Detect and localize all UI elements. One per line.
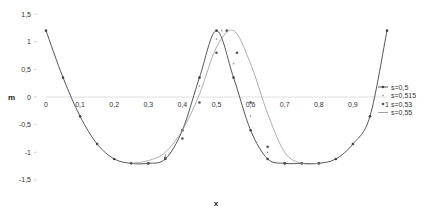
- legend: s=0,5s=0,515s=0,53s=0,55: [378, 84, 416, 117]
- y-tick-label: 0,5: [21, 66, 31, 73]
- x-tick-label: 0,3: [143, 101, 153, 108]
- data-point: [369, 115, 372, 118]
- x-tick-label: 0,2: [109, 101, 119, 108]
- data-point: [96, 143, 99, 146]
- data-point: [249, 129, 252, 132]
- legend-label: s=0,55: [391, 109, 412, 116]
- y-axis-label: m: [8, 93, 15, 102]
- data-point: [221, 30, 223, 32]
- data-point: [62, 76, 65, 79]
- data-point: [45, 29, 48, 32]
- data-point: [198, 76, 201, 79]
- line-chart: 00,10,20,30,40,50,60,70,80,911,510,50-0,…: [0, 0, 425, 211]
- x-tick-label: 0,5: [212, 101, 222, 108]
- x-axis-label: x: [214, 199, 219, 208]
- data-point: [181, 137, 184, 140]
- legend-label: s=0,53: [391, 101, 412, 108]
- data-point: [266, 158, 269, 161]
- x-tick-label: 0,7: [280, 101, 290, 108]
- data-point: [266, 145, 269, 148]
- x-tick-label: 1: [385, 101, 389, 108]
- data-point: [164, 157, 167, 160]
- legend-item: s=0,55: [378, 109, 412, 116]
- y-tick-label: 1,5: [21, 11, 31, 18]
- x-tick-label: 0,4: [178, 101, 188, 108]
- data-point: [165, 154, 167, 156]
- x-tick-label: 0,9: [348, 101, 358, 108]
- data-point: [232, 76, 235, 79]
- data-point: [113, 158, 116, 161]
- y-tick-label: 1: [27, 38, 31, 45]
- x-tick-label: 0,8: [314, 101, 324, 108]
- legend-label: s=0,515: [391, 92, 416, 99]
- y-tick-label: -1,5: [19, 176, 31, 183]
- data-point: [386, 29, 389, 32]
- x-tick-label: 0: [44, 101, 48, 108]
- data-point: [215, 51, 218, 54]
- legend-label: s=0,5: [391, 84, 408, 91]
- y-tick-label: -1: [25, 149, 31, 156]
- data-point: [352, 143, 355, 146]
- data-point: [335, 158, 338, 161]
- data-point: [283, 162, 286, 165]
- data-point: [236, 51, 239, 54]
- data-point: [147, 162, 150, 165]
- y-tick-label: -0,5: [19, 121, 31, 128]
- axes: 00,10,20,30,40,50,60,70,80,911,510,50-0,…: [19, 11, 389, 184]
- data-point: [198, 101, 201, 104]
- data-point: [216, 38, 218, 40]
- legend-item: s=0,515: [382, 92, 416, 99]
- data-point: [267, 152, 269, 154]
- data-point: [79, 115, 82, 118]
- legend-item: s=0,5: [378, 84, 408, 91]
- x-tick-label: 0,1: [75, 101, 85, 108]
- data-point: [215, 29, 218, 32]
- data-point: [233, 63, 235, 65]
- y-tick-label: 0: [27, 94, 31, 101]
- data-point: [199, 85, 201, 87]
- data-point: [249, 101, 252, 104]
- data-point: [250, 116, 252, 118]
